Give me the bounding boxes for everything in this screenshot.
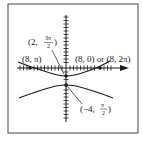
label-8-pi: (8, π) bbox=[22, 54, 42, 64]
leader-line-neg4-pi2 bbox=[67, 86, 82, 104]
leader-line-2-3pi2 bbox=[52, 50, 64, 74]
svg-text:(2,: (2, bbox=[28, 37, 38, 47]
x-axis-arrow-icon bbox=[120, 65, 129, 71]
label-8-0-or-8-2pi: (8, 0) or (8, 2π) bbox=[75, 54, 131, 64]
point-2-3pi-over-2 bbox=[64, 74, 68, 78]
point-8-pi bbox=[28, 66, 32, 70]
svg-text:3π: 3π bbox=[45, 35, 51, 41]
label-2-3pi2: (2, 3π 2 ) bbox=[28, 35, 57, 49]
svg-text:): ) bbox=[108, 104, 111, 114]
svg-text:π: π bbox=[101, 102, 104, 108]
label-neg4-pi2: (−4, π 2 ) bbox=[80, 102, 111, 116]
svg-text:(−4,: (−4, bbox=[80, 104, 95, 114]
polar-graph-figure: (8, π) (2, 3π 2 ) (8, 0) or (8, 2π) (−4,… bbox=[0, 0, 143, 145]
point-8-0 bbox=[98, 66, 102, 70]
svg-text:): ) bbox=[54, 37, 57, 47]
svg-text:2: 2 bbox=[47, 43, 50, 49]
svg-text:2: 2 bbox=[102, 110, 105, 116]
